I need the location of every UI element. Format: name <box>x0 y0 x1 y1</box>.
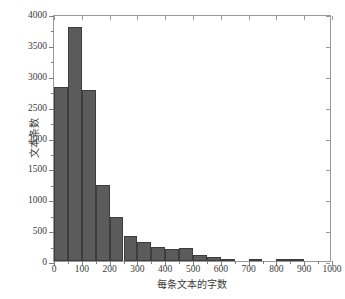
x-tick-mark-top <box>110 16 111 20</box>
y-tick-label: 0 <box>42 258 47 268</box>
x-tick-mark-top <box>82 16 83 20</box>
y-minor-tick-mark <box>51 248 54 249</box>
x-minor-tick-mark <box>318 261 319 264</box>
x-tick-mark-top <box>249 16 250 20</box>
y-tick-mark <box>49 232 54 233</box>
y-tick-label: 1500 <box>28 166 47 176</box>
histogram-bar <box>221 259 235 261</box>
histogram-bar <box>151 247 165 261</box>
x-minor-tick-mark <box>151 261 152 264</box>
y-minor-tick-mark <box>51 62 54 63</box>
histogram-bar <box>54 87 68 261</box>
histogram-bar <box>124 236 138 261</box>
x-tick-label: 300 <box>130 265 144 275</box>
x-minor-tick-mark <box>179 261 180 264</box>
y-tick-mark <box>49 78 54 79</box>
x-tick-mark-top <box>137 16 138 20</box>
y-minor-tick-mark <box>51 186 54 187</box>
x-tick-mark-top <box>165 16 166 20</box>
y-tick-label: 3500 <box>28 42 47 52</box>
x-tick-label: 500 <box>186 265 200 275</box>
x-tick-label: 800 <box>269 265 283 275</box>
x-tick-mark-top <box>276 16 277 20</box>
y-minor-tick-mark <box>51 124 54 125</box>
y-tick-label: 1000 <box>28 197 47 207</box>
x-tick-mark-top <box>193 16 194 20</box>
histogram-bar <box>290 259 304 261</box>
x-tick-mark-top <box>332 16 333 20</box>
histogram-bar <box>110 217 124 261</box>
y-tick-label: 2500 <box>28 104 47 114</box>
y-tick-mark-right <box>326 170 330 171</box>
histogram-bar <box>137 242 151 261</box>
histogram-bar <box>249 259 263 261</box>
x-minor-tick-mark <box>68 261 69 264</box>
y-tick-mark <box>49 47 54 48</box>
x-tick-label: 700 <box>241 265 255 275</box>
y-minor-tick-mark <box>51 31 54 32</box>
y-tick-label: 500 <box>33 227 47 237</box>
x-tick-label: 100 <box>75 265 89 275</box>
x-minor-tick-mark <box>124 261 125 264</box>
x-minor-tick-mark <box>235 261 236 264</box>
histogram-bar <box>193 255 207 261</box>
x-tick-mark-top <box>54 16 55 20</box>
y-tick-mark-right <box>326 47 330 48</box>
y-tick-mark <box>49 140 54 141</box>
x-minor-tick-mark <box>263 261 264 264</box>
x-tick-label: 200 <box>102 265 116 275</box>
x-minor-tick-mark <box>207 261 208 264</box>
x-tick-label: 400 <box>158 265 172 275</box>
x-minor-tick-mark <box>96 261 97 264</box>
y-tick-mark-right <box>326 140 330 141</box>
y-tick-mark <box>49 170 54 171</box>
y-tick-mark-right <box>326 109 330 110</box>
histogram-figure: 05001000150020002500300035004000 0100200… <box>0 0 345 299</box>
y-axis-title: 文本条数 <box>29 118 40 158</box>
y-minor-tick-mark <box>51 155 54 156</box>
x-minor-tick-mark <box>290 261 291 264</box>
y-minor-tick-mark <box>51 93 54 94</box>
y-tick-mark <box>49 201 54 202</box>
x-tick-label: 0 <box>52 265 57 275</box>
y-tick-label: 3000 <box>28 73 47 83</box>
x-tick-mark-top <box>221 16 222 20</box>
histogram-bar <box>207 257 221 261</box>
histogram-bar <box>276 259 290 261</box>
histogram-bar <box>179 248 193 261</box>
y-tick-mark <box>49 109 54 110</box>
histogram-bar <box>68 27 82 261</box>
y-tick-mark-right <box>326 201 330 202</box>
x-tick-mark-top <box>304 16 305 20</box>
histogram-bar <box>96 185 110 261</box>
x-tick-label: 900 <box>297 265 311 275</box>
y-tick-mark-right <box>326 16 330 17</box>
x-axis-title: 每条文本的字数 <box>53 279 331 290</box>
plot-area: 05001000150020002500300035004000 0100200… <box>53 15 331 262</box>
x-tick-label: 1000 <box>323 265 342 275</box>
y-tick-mark-right <box>326 78 330 79</box>
y-minor-tick-mark <box>51 217 54 218</box>
x-tick-label: 600 <box>214 265 228 275</box>
histogram-bar <box>165 249 179 261</box>
y-tick-label: 4000 <box>28 11 47 21</box>
histogram-bar <box>82 90 96 261</box>
bars-layer <box>54 16 330 261</box>
y-tick-mark-right <box>326 232 330 233</box>
